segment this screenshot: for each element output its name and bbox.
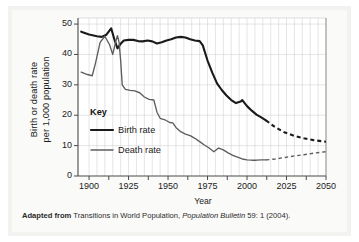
x-tick-label: 2025 — [270, 181, 304, 191]
figure-caption: Adapted from Transitions in World Popula… — [22, 211, 338, 220]
y-tick-label: 20 — [46, 109, 72, 119]
y-tick-label: 30 — [46, 79, 72, 89]
legend-title: Key — [90, 107, 107, 117]
y-tick-label: 40 — [46, 48, 72, 58]
x-tick-label: 1975 — [191, 181, 225, 191]
y-axis-title-line2: per 1,000 population — [40, 57, 50, 143]
caption-body-1: Transitions in World Population, — [71, 211, 182, 220]
y-axis-title-line1: Birth or death rate — [29, 62, 39, 137]
legend-label-death-rate: Death rate — [118, 145, 161, 155]
x-tick-label: 1900 — [72, 181, 106, 191]
legend-label-birth-rate: Birth rate — [118, 125, 155, 135]
caption-prefix: Adapted from — [22, 211, 71, 220]
x-tick-label: 1925 — [112, 181, 146, 191]
x-tick-label: 2000 — [230, 181, 264, 191]
x-tick-label: 1950 — [151, 181, 185, 191]
figure-panel: Birth or death rate per 1,000 population… — [8, 6, 351, 236]
y-tick-label: 0 — [46, 170, 72, 180]
y-axis-title-wrap: Birth or death rate per 1,000 population — [22, 16, 46, 188]
y-tick-label: 50 — [46, 18, 72, 28]
x-tick-label: 2050 — [309, 181, 343, 191]
y-tick-label: 10 — [46, 140, 72, 150]
y-axis-title: Birth or death rate per 1,000 population — [29, 20, 52, 180]
x-axis-title: Year — [168, 196, 238, 206]
caption-italic: Population Bulletin — [182, 211, 245, 220]
caption-body-2: 59: 1 (2004). — [245, 211, 290, 220]
